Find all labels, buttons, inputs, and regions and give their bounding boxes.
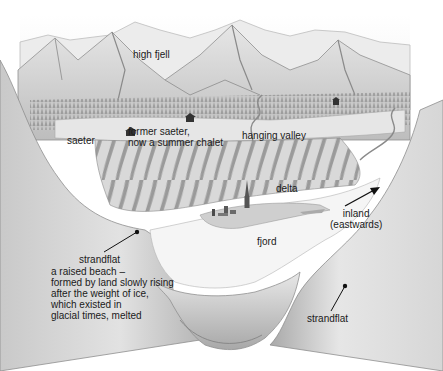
- label-inland: inland (eastwards): [330, 208, 382, 230]
- label-saeter: saeter: [67, 135, 95, 146]
- label-former-saeter: former saeter, now a summer chalet: [128, 126, 223, 148]
- label-strandflat-description: a raised beach – formed by land slowly r…: [51, 266, 174, 321]
- label-strandflat-right: strandflat: [307, 313, 348, 324]
- label-hanging-valley: hanging valley: [242, 130, 306, 141]
- label-strandflat-left: strandflat: [79, 254, 120, 265]
- label-delta: delta: [276, 183, 298, 194]
- label-fjord: fjord: [257, 236, 276, 247]
- label-high-fjell: high fjell: [133, 49, 170, 60]
